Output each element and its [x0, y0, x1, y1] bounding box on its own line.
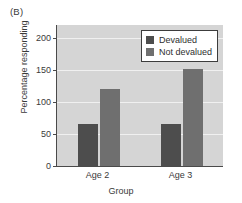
legend-label-devalued: Devalued — [159, 35, 197, 46]
y-axis-tick-label: 50 — [41, 129, 51, 139]
chart-legend: Devalued Not devalued — [141, 30, 218, 62]
y-axis-tick — [53, 134, 57, 135]
y-axis-tick — [53, 166, 57, 167]
bar-devalued-age-2 — [78, 124, 98, 166]
y-axis-tick — [53, 102, 57, 103]
y-axis-tick-label: 150 — [36, 65, 51, 75]
y-axis-tick-label: 200 — [36, 33, 51, 43]
figure-panel-b: (B) Percentage responding 050100150200 G… — [0, 0, 242, 203]
bar-not-devalued-age-3 — [183, 69, 203, 166]
y-axis-tick-label: 100 — [36, 97, 51, 107]
y-axis-tick-label: 0 — [46, 161, 51, 171]
legend-swatch-devalued — [146, 36, 154, 44]
bar-devalued-age-3 — [161, 124, 181, 166]
legend-item-not-devalued: Not devalued — [146, 46, 212, 58]
legend-label-not-devalued: Not devalued — [159, 47, 212, 58]
x-axis-title: Group — [0, 186, 242, 196]
y-axis-tick — [53, 38, 57, 39]
x-axis-tick-label: Age 2 — [86, 170, 110, 180]
bar-not-devalued-age-2 — [100, 89, 120, 166]
y-axis-tick — [53, 70, 57, 71]
y-axis-title: Percentage responding — [19, 5, 29, 129]
legend-swatch-not-devalued — [146, 48, 154, 56]
x-axis-tick-label: Age 3 — [169, 170, 193, 180]
legend-item-devalued: Devalued — [146, 34, 212, 46]
